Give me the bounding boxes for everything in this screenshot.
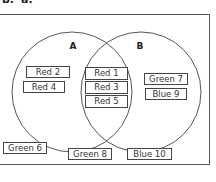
element-outside: Green 6 <box>3 142 47 154</box>
element-a-and-b: Red 5 <box>85 95 128 108</box>
set-b-label: B <box>137 41 144 51</box>
element-outside: Green 8 <box>68 148 112 160</box>
element-a-and-b: Red 3 <box>85 81 128 94</box>
element-only-b: Green 7 <box>144 73 188 85</box>
set-a-label: A <box>70 41 77 51</box>
element-only-b: Blue 9 <box>145 88 187 100</box>
element-a-and-b: Red 1 <box>85 67 128 80</box>
element-outside: Blue 10 <box>127 148 172 160</box>
element-only-a: Red 2 <box>26 66 70 78</box>
element-only-a: Red 4 <box>23 81 65 93</box>
